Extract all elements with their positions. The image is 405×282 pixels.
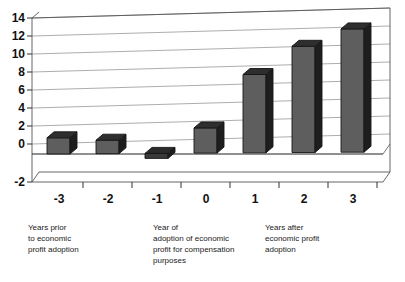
bar-minus2 — [96, 134, 126, 154]
x-tick-label-minus1: -1 — [152, 192, 163, 206]
bar-3 — [341, 23, 371, 152]
y-tick-label-neg2: -2 — [14, 175, 25, 189]
y-tick-label-6: 6 — [18, 83, 25, 97]
y-axis-ticks — [27, 18, 32, 182]
plot-frame — [32, 8, 390, 182]
bar-2 — [292, 40, 322, 152]
y-tick-label-12: 12 — [12, 29, 26, 43]
y-tick-label-4: 4 — [18, 101, 25, 115]
y-tick-label-14: 14 — [12, 11, 26, 25]
caption-years-after: Years after economic profit adoption — [265, 222, 377, 255]
caption-years-prior: Years prior to economic profit adoption — [28, 222, 138, 255]
x-tick-label-3: 3 — [350, 192, 357, 206]
bar-1 — [243, 69, 273, 153]
bar-minus3 — [47, 132, 77, 154]
bar-chart: 14 12 10 8 6 4 2 0 -2 — [0, 0, 405, 282]
bar-0 — [194, 122, 224, 153]
y-tick-label-0: 0 — [18, 137, 25, 151]
x-axis-labels: -3 -2 -1 0 1 2 3 — [54, 192, 357, 206]
y-tick-label-8: 8 — [18, 65, 25, 79]
y-axis-labels: 14 12 10 8 6 4 2 0 -2 — [12, 11, 26, 189]
bar-minus1 — [145, 147, 175, 158]
x-tick-label-1: 1 — [252, 192, 259, 206]
x-tick-label-minus2: -2 — [103, 192, 114, 206]
plot-floor — [32, 172, 390, 182]
x-tick-label-0: 0 — [203, 192, 210, 206]
caption-year-of-adoption: Year of adoption of economic profit for … — [153, 222, 271, 266]
y-tick-label-10: 10 — [12, 47, 26, 61]
x-tick-label-2: 2 — [301, 192, 308, 206]
y-tick-label-2: 2 — [18, 119, 25, 133]
x-tick-label-minus3: -3 — [54, 192, 65, 206]
x-axis-ticks — [83, 182, 377, 188]
